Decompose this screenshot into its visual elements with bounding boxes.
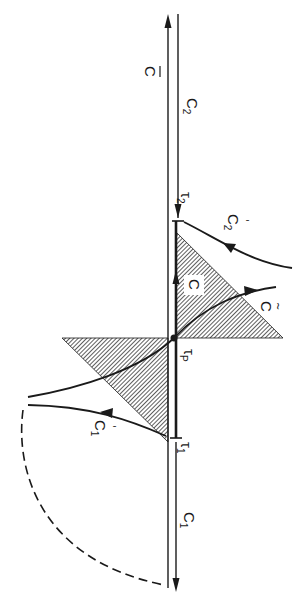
label-c-inner: C (186, 279, 203, 290)
c1-arrow-icon (173, 578, 180, 592)
label-c2-prime-sub: 2 (222, 225, 233, 231)
label-c1-prime-sub: 1 (89, 431, 100, 437)
svg-text:C1: C1 (178, 512, 198, 529)
contour-diagram: C C2 C1 τ2 τ1 τP C C ~ C2 ' C1 ' (0, 0, 304, 603)
svg-text:τ1: τ1 (175, 442, 195, 454)
label-c2: C (184, 98, 201, 109)
c2-arrow-icon (175, 204, 182, 218)
label-c1-sub: 1 (178, 523, 189, 529)
label-tau2-sub: 2 (175, 198, 186, 204)
c1-prime-mark: ' (106, 425, 117, 428)
label-c-bar: C (142, 66, 159, 77)
svg-text:C2: C2 (181, 98, 201, 115)
c-bar-arrow-icon (165, 14, 172, 28)
c2-prime-mark: ' (239, 219, 250, 222)
svg-text:C1: C1 (89, 420, 109, 437)
label-c1: C (181, 512, 198, 523)
c-tilde-mark: ~ (272, 302, 283, 310)
label-tau-p-sub: P (178, 355, 189, 362)
svg-text:τP: τP (178, 349, 198, 362)
label-c2-sub: 2 (181, 109, 192, 115)
label-tau1-sub: 1 (175, 448, 186, 454)
svg-text:C2: C2 (222, 214, 242, 231)
